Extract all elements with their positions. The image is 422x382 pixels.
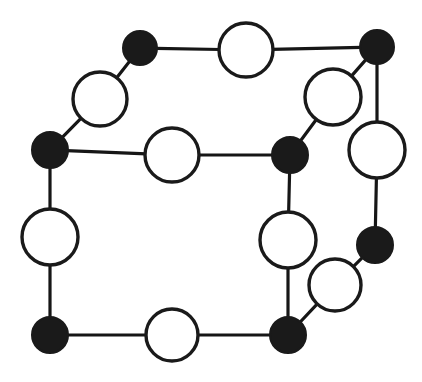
diagram-canvas xyxy=(0,0,422,382)
graph-node-upper-left-open[interactable] xyxy=(73,72,127,126)
graph-edge-n6-n7 xyxy=(66,151,146,154)
graph-node-center-open[interactable] xyxy=(145,128,199,182)
graph-edge-n9-n12 xyxy=(375,176,376,228)
graph-node-far-right-open[interactable] xyxy=(349,122,405,178)
graph-node-left-middle-open[interactable] xyxy=(22,209,78,265)
graph-node-bottom-right-filled[interactable] xyxy=(270,317,306,353)
graph-node-right-middle-open[interactable] xyxy=(260,212,316,268)
graph-node-left-filled[interactable] xyxy=(32,132,68,168)
graph-edge-n3-n5 xyxy=(351,59,367,77)
graph-node-bottom-middle-open[interactable] xyxy=(146,309,198,361)
graph-edge-n5-n8 xyxy=(300,118,317,141)
graph-edge-n13-n16 xyxy=(299,303,318,323)
graph-node-right-filled[interactable] xyxy=(357,227,393,263)
graph-node-bottom-left-filled[interactable] xyxy=(32,317,68,353)
graph-edge-n8-n11 xyxy=(289,172,290,214)
graph-edge-n4-n6 xyxy=(62,117,83,138)
graph-edge-n1-n4 xyxy=(116,60,131,79)
nodes-layer xyxy=(22,23,405,361)
graph-node-top-left-filled[interactable] xyxy=(123,31,157,65)
graph-node-upper-right-inner-open[interactable] xyxy=(305,69,361,125)
graph-svg xyxy=(0,0,422,382)
graph-node-top-middle-open[interactable] xyxy=(219,23,273,77)
graph-node-top-right-filled[interactable] xyxy=(360,30,394,64)
graph-node-center-right-filled[interactable] xyxy=(272,137,308,173)
graph-edge-n2-n3 xyxy=(271,47,361,49)
graph-edge-n1-n2 xyxy=(156,48,221,49)
graph-node-lower-right-inner-open[interactable] xyxy=(309,259,361,311)
